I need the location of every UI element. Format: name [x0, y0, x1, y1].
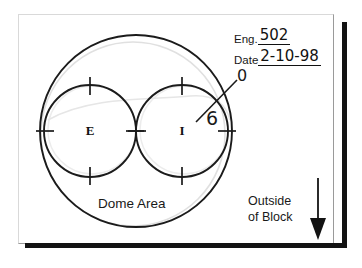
outside-of-block-line-2: of Block [248, 210, 292, 226]
date-label: Date [234, 54, 258, 66]
intake-valve-letter: I [179, 123, 184, 139]
outside-of-block-line-1: Outside [248, 194, 292, 210]
engine-number-value[interactable]: 502 [258, 28, 291, 45]
outside-of-block-label: Outside of Block [248, 194, 292, 225]
callout-six-value: 6 [206, 107, 219, 129]
screenshot-canvas: Eng. 502 Date 2-10-98 0 6 E I Dome Area … [0, 0, 362, 268]
callout-zero-value: 0 [237, 66, 248, 85]
engine-number-field[interactable]: Eng. 502 [234, 28, 290, 45]
date-value[interactable]: 2-10-98 [258, 49, 321, 66]
down-arrow-icon [310, 178, 326, 240]
exhaust-valve-letter: E [86, 123, 95, 139]
dome-area-label: Dome Area [98, 196, 166, 211]
date-field[interactable]: Date 2-10-98 [234, 49, 321, 66]
block-edge-bottom [25, 243, 347, 248]
block-edge-right [342, 22, 347, 248]
engine-number-label: Eng. [234, 33, 258, 45]
